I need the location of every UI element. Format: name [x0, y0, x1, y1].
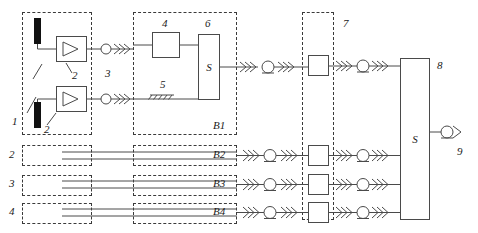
coupling-circle-upper-icon [101, 44, 111, 54]
channel-tag-b4: B4 [213, 206, 225, 217]
callout-5: 5 [160, 79, 166, 90]
coupling-circle-lower-icon [101, 94, 111, 104]
callout-2-upper: 2 [72, 70, 78, 81]
callout-3: 3 [105, 68, 111, 79]
callout-1: 1 [12, 116, 18, 127]
coupling-circle-b1-out-icon [262, 61, 274, 73]
coupling-circle-7-out-b2-icon [357, 150, 369, 162]
coupling-circle-7-out-b4-icon [357, 207, 369, 219]
coupling-circle-b2-icon [264, 150, 276, 162]
callout-7: 7 [343, 18, 349, 29]
callout-8: 8 [437, 60, 443, 71]
channel-tag-b1: B1 [213, 120, 225, 131]
channel-index-3: 3 [9, 178, 15, 189]
coupling-circle-b3-icon [264, 179, 276, 191]
coupling-circle-b4-icon [264, 207, 276, 219]
channel-index-4: 4 [9, 206, 15, 217]
callout-6: 6 [205, 18, 211, 29]
callout-9: 9 [457, 146, 463, 157]
coupling-circle-7-out-b1-icon [357, 60, 369, 72]
channel-tag-b2: B2 [213, 149, 225, 160]
diagram-vector-overlay [0, 0, 478, 233]
channel-tag-b3: B3 [213, 178, 225, 189]
amplifier-triangle-lower-icon [63, 92, 78, 106]
coupling-circle-7-out-b3-icon [357, 179, 369, 191]
amplifier-triangle-upper-icon [63, 42, 78, 56]
channel-index-2: 2 [9, 149, 15, 160]
output-coupling-circle-icon [441, 126, 453, 138]
block-diagram-canvas: S S [0, 0, 478, 233]
callout-2-lower: 2 [44, 124, 50, 135]
callout-4: 4 [162, 18, 168, 29]
